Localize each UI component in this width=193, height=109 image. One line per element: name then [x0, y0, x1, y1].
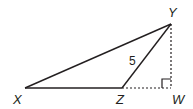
right-angle-marker	[162, 79, 171, 88]
segment-xy	[25, 24, 171, 88]
label-w: W	[172, 92, 186, 107]
label-x: X	[12, 92, 23, 107]
label-z: Z	[115, 92, 125, 107]
label-y: Y	[168, 5, 178, 20]
triangle-diagram: Y X Z W 5	[0, 0, 193, 109]
label-zy-length: 5	[129, 54, 136, 68]
